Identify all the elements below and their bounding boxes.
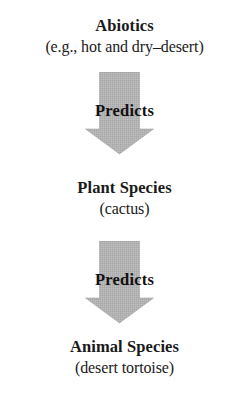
flow-diagram: Abiotics (e.g., hot and dry–desert) Pred… xyxy=(0,0,249,396)
arrow-predicts-2-label: Predicts xyxy=(0,270,249,290)
node-plant-species-subtitle: (cactus) xyxy=(0,201,249,217)
node-animal-species-title: Animal Species xyxy=(0,339,249,356)
node-plant-species: Plant Species (cactus) xyxy=(0,180,249,217)
arrow-predicts-2: Predicts xyxy=(0,241,249,325)
arrow-predicts-1-label: Predicts xyxy=(0,101,249,121)
node-abiotics: Abiotics (e.g., hot and dry–desert) xyxy=(0,18,249,55)
node-animal-species-subtitle: (desert tortoise) xyxy=(0,360,249,376)
node-plant-species-title: Plant Species xyxy=(0,180,249,197)
node-abiotics-subtitle: (e.g., hot and dry–desert) xyxy=(0,39,249,55)
node-animal-species: Animal Species (desert tortoise) xyxy=(0,339,249,376)
arrow-predicts-1: Predicts xyxy=(0,72,249,156)
node-abiotics-title: Abiotics xyxy=(0,18,249,35)
